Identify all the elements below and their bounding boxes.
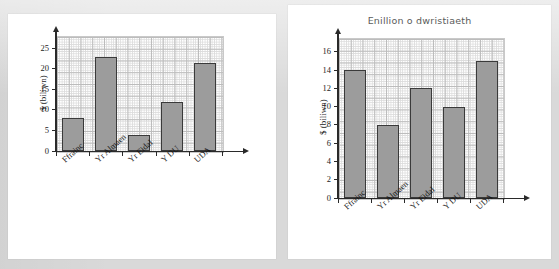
screenshot-root: Gwariant ar dwristiaeth 0510152025$ (bil…	[0, 0, 559, 269]
y-axis-line	[337, 33, 338, 198]
y-axis-tick	[334, 143, 338, 144]
y-axis-tick	[52, 68, 56, 69]
y-axis-tick-label: 2	[327, 174, 331, 184]
x-axis-tick	[503, 199, 504, 203]
y-axis-tick-label: 0	[45, 146, 49, 156]
y-axis-arrow-icon	[335, 28, 341, 34]
y-axis-tick	[334, 124, 338, 125]
y-axis-tick	[334, 106, 338, 107]
y-axis-tick	[52, 48, 56, 49]
y-axis-tick	[334, 51, 338, 52]
y-axis-tick	[52, 89, 56, 90]
y-axis-tick-label: 12	[323, 83, 332, 93]
chart-panel-gwariant: Gwariant ar dwristiaeth 0510152025$ (bil…	[8, 14, 276, 259]
x-axis-tick	[437, 199, 438, 203]
y-axis-tick-label: 6	[327, 138, 331, 148]
bar	[194, 63, 216, 151]
y-axis-line	[55, 31, 56, 151]
y-axis-tick	[52, 130, 56, 131]
y-axis-tick	[52, 151, 56, 152]
x-axis-tick	[470, 199, 471, 203]
y-axis-tick	[334, 198, 338, 199]
y-axis-tick-label: 16	[323, 46, 332, 56]
bar	[443, 107, 465, 198]
x-axis-tick	[56, 152, 57, 156]
y-axis-tick	[334, 88, 338, 89]
x-axis-arrow-icon	[243, 148, 249, 154]
bar	[344, 70, 366, 198]
x-axis-line	[337, 198, 524, 199]
x-axis-tick	[338, 199, 339, 203]
x-axis-line	[55, 151, 243, 152]
chart-panel-enillion: Enillion o dwristiaeth 0246810121416$ (b…	[288, 5, 551, 259]
x-axis-tick	[122, 152, 123, 156]
x-axis-tick	[156, 152, 157, 156]
y-axis-caption: $ (biliwn)	[318, 99, 328, 135]
x-axis-tick	[404, 199, 405, 203]
x-axis-tick	[189, 152, 190, 156]
y-axis-tick-label: 0	[327, 193, 331, 203]
x-axis-tick	[371, 199, 372, 203]
y-axis-tick	[334, 179, 338, 180]
y-axis-arrow-icon	[53, 26, 59, 32]
y-axis-tick-label: 20	[41, 63, 50, 73]
y-axis-tick	[334, 161, 338, 162]
y-axis-tick-label: 5	[45, 125, 49, 135]
bar	[476, 61, 498, 198]
chart-title-enillion: Enillion o dwristiaeth	[288, 15, 551, 26]
y-axis-tick-label: 14	[323, 65, 332, 75]
y-axis-tick	[334, 70, 338, 71]
y-axis-tick-label: 4	[327, 156, 331, 166]
y-axis-tick-label: 25	[41, 43, 50, 53]
y-axis-caption: $ (biliwn)	[38, 75, 48, 111]
y-axis-tick	[52, 109, 56, 110]
x-axis-tick	[89, 152, 90, 156]
x-axis-tick	[222, 152, 223, 156]
x-axis-arrow-icon	[524, 195, 530, 201]
bar	[410, 88, 432, 198]
